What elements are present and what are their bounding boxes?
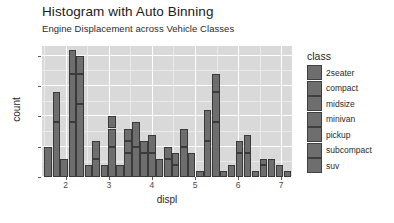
histogram-bar (220, 171, 227, 177)
gridline-vertical-minor (87, 46, 88, 177)
legend-item-2seater[interactable]: 2seater (307, 65, 372, 81)
y-axis-tick-mark (38, 177, 41, 178)
y-axis-tick-mark (38, 86, 41, 87)
histogram-bar-segment (108, 147, 115, 177)
histogram-bar (85, 165, 92, 177)
legend-item-label: midsize (326, 99, 355, 109)
x-axis-tick-label: 5 (193, 180, 198, 190)
histogram-bar-segment (228, 165, 235, 177)
x-axis-tick-label: 6 (236, 180, 241, 190)
histogram-bar-segment (53, 122, 60, 177)
histogram-bar-segment (76, 56, 83, 74)
histogram-bar (108, 116, 115, 177)
x-axis-tick-mark (281, 177, 282, 180)
legend-item-suv[interactable]: suv (307, 158, 372, 174)
legend-item-list: 2seatercompactmidsizeminivanpickupsubcom… (307, 65, 372, 174)
histogram-bar-segment (116, 165, 123, 177)
histogram-bar-segment (164, 147, 171, 159)
x-axis-tick-label: 2 (63, 180, 68, 190)
histogram-bar (53, 92, 60, 177)
x-axis-tick-mark (152, 177, 153, 180)
histogram-bar-segment (260, 165, 267, 177)
x-axis-tick-mark (109, 177, 110, 180)
legend-item-pickup[interactable]: pickup (307, 127, 372, 143)
histogram-bar-segment (148, 135, 155, 153)
histogram-bar (92, 141, 99, 177)
legend-item-label: pickup (326, 130, 351, 140)
legend-swatch-icon (307, 143, 322, 158)
histogram-bar-segment (108, 116, 115, 128)
histogram-bar-segment (252, 171, 259, 177)
legend-item-minivan[interactable]: minivan (307, 112, 372, 128)
legend-swatch-icon (307, 96, 322, 111)
legend-swatch-icon (307, 65, 322, 80)
plot-panel (42, 46, 292, 177)
histogram-bar (212, 74, 219, 177)
legend-item-label: 2seater (326, 68, 354, 78)
histogram-bar-segment (220, 171, 227, 177)
histogram-bar-segment (204, 141, 211, 177)
histogram-bar-segment (124, 153, 131, 177)
chart-subtitle: Engine Displacement across Vehicle Class… (42, 23, 234, 34)
histogram-bar-segment (140, 141, 147, 153)
histogram-bar (180, 128, 187, 177)
legend-swatch-icon (307, 127, 322, 142)
histogram-bar-segment (180, 147, 187, 177)
histogram-bar (236, 141, 243, 177)
histogram-bar-segment (140, 153, 147, 177)
x-axis-tick-label: 3 (106, 180, 111, 190)
histogram-bar (116, 165, 123, 177)
histogram-bar-segment (244, 153, 251, 177)
histogram-bar-segment (212, 74, 219, 92)
chart-title: Histogram with Auto Binning (42, 4, 214, 19)
y-axis-tick-mark (38, 116, 41, 117)
histogram-bar (140, 141, 147, 177)
y-axis-title: count (11, 80, 22, 140)
histogram-bar (124, 128, 131, 177)
histogram-bar (268, 159, 275, 177)
histogram-bar-segment (260, 159, 267, 165)
histogram-bar-segment (204, 110, 211, 140)
legend-item-label: subcompact (326, 145, 372, 155)
histogram-bar-segment (76, 74, 83, 104)
histogram-bar-segment (85, 165, 92, 177)
histogram-bar-segment (172, 153, 179, 165)
histogram-bar (172, 153, 179, 177)
histogram-bar-segment (180, 129, 187, 147)
histogram-bar-segment (92, 141, 99, 159)
histogram-bar-segment (132, 122, 139, 146)
histogram-bar-segment (244, 135, 251, 153)
histogram-bar (148, 135, 155, 177)
histogram-bar-segment (92, 159, 99, 177)
histogram-bar (260, 159, 267, 177)
legend-item-subcompact[interactable]: subcompact (307, 143, 372, 159)
legend-swatch-icon (307, 158, 322, 173)
histogram-bar-segment (188, 153, 195, 177)
histogram-bar-segment (124, 129, 131, 141)
histogram-bar-segment (212, 92, 219, 122)
chart-root: Histogram with Auto Binning Engine Displ… (0, 0, 394, 223)
histogram-bar-segment (236, 153, 243, 177)
histogram-bar (76, 56, 83, 177)
y-axis-tick-mark (38, 147, 41, 148)
histogram-bar (244, 135, 251, 177)
x-axis-tick-label: 4 (150, 180, 155, 190)
histogram-bar (284, 171, 291, 177)
legend-item-compact[interactable]: compact (307, 81, 372, 97)
histogram-bar (164, 147, 171, 177)
y-axis-tick-mark (38, 56, 41, 57)
histogram-bar-segment (276, 165, 283, 177)
histogram-bar (44, 147, 51, 177)
x-axis-tick-label: 7 (279, 180, 284, 190)
legend-title: class (307, 50, 372, 62)
x-axis-title: displ (42, 194, 292, 205)
legend-swatch-icon (307, 112, 322, 127)
histogram-bar (252, 171, 259, 177)
gridline-vertical-major (281, 46, 282, 177)
histogram-bar-segment (108, 129, 115, 147)
legend-swatch-icon (307, 81, 322, 96)
histogram-bar-segment (284, 171, 291, 177)
histogram-bar-segment (69, 122, 76, 177)
legend-item-midsize[interactable]: midsize (307, 96, 372, 112)
histogram-bar (132, 122, 139, 177)
